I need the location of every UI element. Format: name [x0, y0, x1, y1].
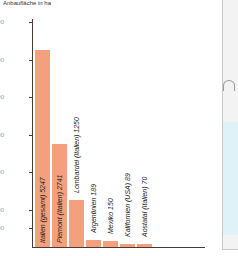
- coastline-shape: [223, 80, 235, 91]
- y-tick: [29, 135, 33, 136]
- water-area: [223, 122, 238, 235]
- bar-label: Piemont (Italien) 2741: [56, 175, 63, 243]
- y-tick: [29, 172, 33, 173]
- bar-label: Lombardei (Italien) 1250: [73, 117, 80, 193]
- y-tick: [29, 22, 33, 23]
- bar: [103, 241, 118, 247]
- bar: [69, 200, 84, 247]
- bar-label: Italien (gesamt) 5247: [39, 177, 46, 243]
- bar: [120, 244, 135, 247]
- y-axis-line: [32, 19, 33, 248]
- bar-label: Aostatal (Italien) 70: [141, 177, 148, 237]
- y-tick: [29, 97, 33, 98]
- y-axis-title: Anbaufläche in ha: [3, 0, 51, 6]
- bar: [137, 244, 152, 247]
- y-tick: [29, 60, 33, 61]
- y-tick: [29, 228, 33, 229]
- y-tick-label: 4000: [0, 94, 4, 100]
- bar: [86, 240, 101, 247]
- bar-label: Mexiko 150: [107, 199, 114, 235]
- y-tick-label: 2000: [0, 169, 4, 175]
- y-tick-label: 6000: [0, 19, 4, 25]
- y-tick-label: 5000: [0, 57, 4, 63]
- bar-chart: Anbaufläche in ha 6000500040003000200010…: [0, 0, 215, 256]
- x-axis-line: [32, 247, 205, 248]
- y-tick-label: 3000: [0, 132, 4, 138]
- y-tick: [29, 210, 33, 211]
- y-tick-label: 500: [0, 225, 4, 231]
- map-panel: [222, 0, 238, 250]
- bar-label: Argentinien 189: [90, 184, 97, 233]
- bar-label: Kalifornien (USA) 89: [124, 173, 131, 237]
- y-tick-label: 1000: [0, 207, 4, 213]
